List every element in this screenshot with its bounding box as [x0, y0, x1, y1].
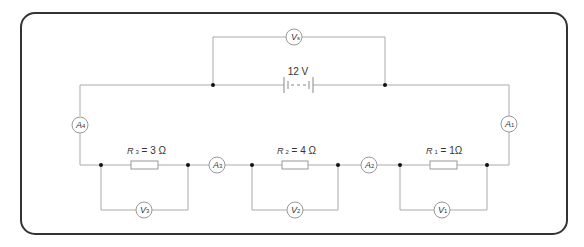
resistor-r1-label: R1 = 1Ω [426, 145, 463, 156]
battery-symbol [284, 77, 313, 93]
resistor-r2 [282, 161, 308, 169]
resistor-r1 [430, 161, 457, 169]
diagram-frame [21, 13, 567, 234]
circuit-diagram: 12 V R3 = 3 Ω R2 = 4 Ω R1 = 1Ω Vs A4 A1 … [0, 0, 584, 247]
resistor-r3 [131, 161, 158, 169]
wires [80, 37, 509, 210]
resistor-r2-label: R2 = 4 Ω [277, 145, 317, 156]
battery-label: 12 V [288, 66, 309, 77]
resistor-r3-label: R3 = 3 Ω [127, 145, 167, 156]
